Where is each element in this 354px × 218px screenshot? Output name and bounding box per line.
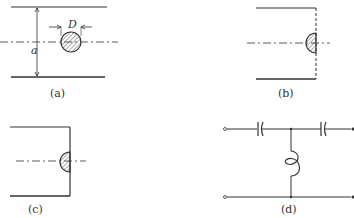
figure-canvas: a D (a) (b) (c) [0,0,354,218]
panel-b: (b) [247,8,330,100]
caption-a: (a) [50,87,65,100]
terminal-top-left [224,128,227,131]
panel-a: a D (a) [0,7,118,100]
hatched-half-circle [60,152,70,172]
hatched-circle [61,32,81,52]
panel-d: (d) [224,122,354,216]
caption-c: (c) [28,203,43,216]
hatched-half-circle [306,33,316,53]
caption-d: (d) [281,203,297,216]
inductor-loop-icon [285,151,299,176]
caption-b: (b) [278,87,294,100]
terminal-bottom-left [224,196,227,199]
panel-c: (c) [10,127,86,216]
diameter-label: D [67,18,77,31]
height-label: a [31,44,38,57]
